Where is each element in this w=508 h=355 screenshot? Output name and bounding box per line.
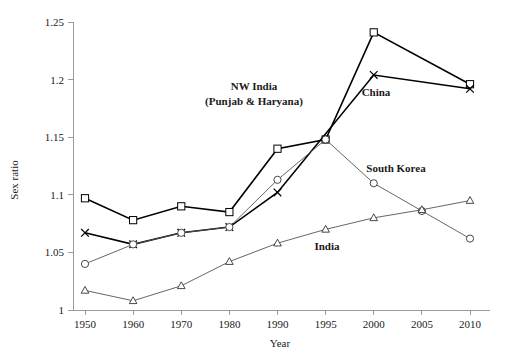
data-point-triangle-marker (466, 197, 474, 204)
annotation-label-line2: (Punjab & Haryana) (205, 95, 303, 108)
data-point-square-marker (370, 29, 377, 36)
x-tick-label: 1960 (122, 318, 145, 330)
data-point-circle-marker (130, 241, 137, 248)
series-nw-india-punjab-haryana (81, 29, 473, 224)
series-annotations: NW India(Punjab & Haryana)ChinaSouth Kor… (205, 80, 426, 252)
annotation-label: India (314, 240, 340, 252)
x-tick-label: 2000 (363, 318, 386, 330)
x-axis: 195019601970198019901995200020052010 (73, 310, 490, 330)
x-tick-label: 2010 (459, 318, 482, 330)
y-tick-label: 1.05 (45, 246, 65, 258)
x-axis-title: Year (270, 337, 291, 349)
annotation-label: South Korea (366, 162, 426, 174)
data-point-circle-marker (274, 176, 281, 183)
data-point-circle-marker (322, 136, 329, 143)
data-point-square-marker (130, 217, 137, 224)
data-point-circle-marker (466, 235, 473, 242)
series-south-korea (81, 136, 473, 268)
data-point-circle-marker (370, 180, 377, 187)
series-india (81, 197, 474, 304)
data-point-triangle-marker (81, 286, 89, 293)
x-tick-label: 1980 (218, 318, 241, 330)
y-tick-label: 1.1 (50, 189, 64, 201)
data-point-circle-marker (178, 229, 185, 236)
data-point-square-marker (226, 208, 233, 215)
data-point-square-marker (274, 145, 281, 152)
data-point-triangle-marker (177, 282, 185, 289)
data-point-square-marker (81, 195, 88, 202)
y-tick-label: 1.25 (45, 16, 65, 28)
data-point-x-marker (274, 189, 282, 197)
y-tick-label: 1.2 (50, 74, 64, 86)
sex-ratio-line-chart: 11.051.11.151.21.25 19501960197019801990… (0, 0, 508, 355)
data-point-circle-marker (226, 223, 233, 230)
x-tick-label: 1995 (315, 318, 338, 330)
y-axis: 11.051.11.151.21.25 (45, 16, 73, 316)
y-axis-title: Sex ratio (8, 160, 20, 200)
annotation-label: China (362, 86, 391, 98)
x-tick-label: 1950 (74, 318, 97, 330)
data-point-square-marker (178, 203, 185, 210)
x-tick-label: 2005 (411, 318, 434, 330)
y-tick-label: 1 (59, 304, 65, 316)
data-point-circle-marker (81, 260, 88, 267)
annotation-label-line1: NW India (231, 80, 278, 92)
x-tick-label: 1970 (170, 318, 193, 330)
y-tick-label: 1.15 (45, 131, 65, 143)
x-tick-label: 1990 (267, 318, 290, 330)
chart-canvas: 11.051.11.151.21.25 19501960197019801990… (0, 0, 508, 355)
